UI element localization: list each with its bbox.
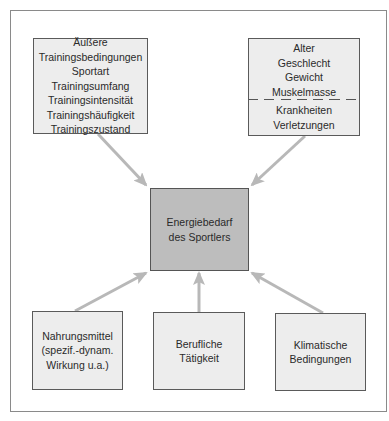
box-line: Klimatische [294,338,348,353]
energy-demand-box: Energiebedarf des Sportlers [150,188,249,271]
food-box: Nahrungsmittel (spezif.-dynam. Wirkung u… [32,311,123,390]
box-line: Wirkung u.a.) [46,358,108,373]
box-line: Trainingsbedingungen [39,50,143,65]
box-line: Trainingshäufigkeit [47,108,135,123]
box-line: Sportart [72,64,109,79]
box-line: des Sportlers [169,230,231,245]
training-factors-box: Äußere Trainingsbedingungen Sportart Tra… [33,38,148,134]
box-line: Alter [293,41,315,56]
box-line: Tätigkeit [179,351,219,366]
box-line: Bedingungen [290,352,352,367]
box-line: Verletzungen [273,118,334,133]
personal-factors-upper: Alter Geschlecht Gewicht Muskelmasse [249,39,359,99]
climate-box: Klimatische Bedingungen [275,313,366,391]
box-line: Energiebedarf [167,215,233,230]
box-line: Trainingsintensität [48,93,133,108]
box-line: (spezif.-dynam. [42,343,114,358]
box-line: Geschlecht [278,56,331,71]
box-line: Berufliche [176,337,223,352]
personal-factors-box: Alter Geschlecht Gewicht Muskelmasse Kra… [248,38,360,136]
personal-factors-lower: Krankheiten Verletzungen [249,100,359,135]
box-line: Muskelmasse [272,85,336,100]
box-line: Trainingsumfang [52,79,130,94]
box-line: Äußere [73,35,107,50]
box-line: Trainingszustand [51,122,131,137]
occupation-box: Berufliche Tätigkeit [153,312,245,390]
box-line: Gewicht [285,70,323,85]
box-line: Nahrungsmittel [42,329,113,344]
box-line: Krankheiten [276,103,332,118]
